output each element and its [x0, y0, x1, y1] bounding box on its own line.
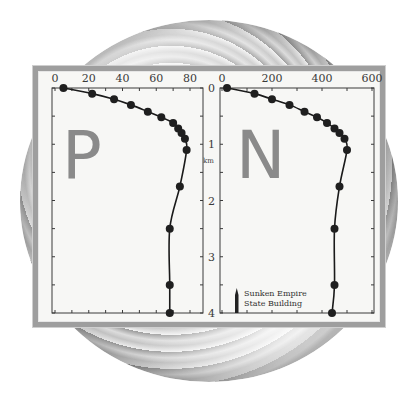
- data-point: [144, 108, 152, 116]
- x-tick-label: 80: [183, 72, 197, 85]
- annotation-line-1: Sunken Empire: [244, 289, 307, 298]
- data-point: [127, 101, 135, 109]
- data-point: [268, 95, 276, 103]
- panel-letter-n: N: [236, 117, 285, 194]
- panel-letter-p: P: [62, 117, 102, 194]
- profile-charts: 020406080 0200400600 01234 P N km Sunken…: [0, 0, 419, 396]
- data-point: [331, 281, 339, 289]
- depth-tick-label: 2: [208, 195, 215, 208]
- x-tick-label: 200: [262, 72, 283, 85]
- depth-tick-label: 0: [208, 82, 215, 95]
- depth-tick-label: 3: [208, 251, 215, 264]
- data-point: [331, 225, 339, 233]
- data-point: [251, 90, 259, 98]
- data-point: [341, 135, 349, 143]
- data-point: [176, 182, 184, 190]
- depth-tick-label: 1: [208, 138, 215, 151]
- x-tick-label: 400: [312, 72, 333, 85]
- x-tick-label: 0: [52, 72, 59, 85]
- empire-state-building-icon: [235, 288, 239, 313]
- data-point: [110, 95, 118, 103]
- data-point: [88, 90, 96, 98]
- data-point: [323, 119, 331, 127]
- data-point: [336, 182, 344, 190]
- data-point: [343, 146, 351, 154]
- data-point: [166, 309, 174, 317]
- plot-n: 0200400600: [219, 72, 383, 317]
- depth-axis: 01234: [208, 82, 215, 320]
- data-point: [166, 225, 174, 233]
- data-point: [157, 113, 165, 121]
- data-point: [181, 135, 189, 143]
- depth-unit-label: km: [203, 157, 214, 165]
- annotation-line-2: State Building: [244, 299, 302, 308]
- x-tick-label: 600: [362, 72, 383, 85]
- x-tick-label: 0: [219, 72, 226, 85]
- data-point: [59, 84, 67, 92]
- plot-p: 020406080: [52, 72, 204, 317]
- depth-tick-label: 4: [208, 307, 215, 320]
- data-point: [328, 309, 336, 317]
- data-point: [286, 101, 294, 109]
- data-point: [313, 113, 321, 121]
- data-point: [301, 108, 309, 116]
- data-point: [223, 84, 231, 92]
- data-point: [166, 281, 174, 289]
- x-tick-label: 60: [149, 72, 163, 85]
- x-tick-label: 20: [82, 72, 96, 85]
- data-point: [183, 146, 191, 154]
- x-tick-label: 40: [116, 72, 130, 85]
